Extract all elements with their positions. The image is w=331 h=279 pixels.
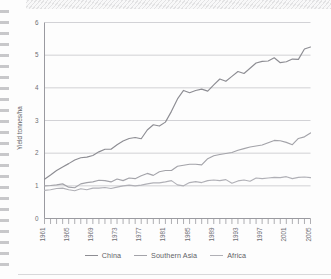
svg-text:2: 2 [35,149,39,156]
chart-plot-svg: 0123456 19611965196919731977198119851989… [0,0,331,279]
svg-text:Yield tonnes/ha: Yield tonnes/ha [16,106,23,150]
svg-text:6: 6 [35,19,39,26]
legend-item-africa: Africa [210,251,246,260]
legend-item-china: China [85,251,121,260]
chart-legend: China Southern Asia Africa [0,251,331,260]
y-axis-title: Yield tonnes/ha [16,106,23,150]
legend-label-southern-asia: Southern Asia [151,251,197,260]
x-axis-ticks [45,219,311,225]
gridlines [45,23,311,186]
svg-text:1981: 1981 [159,227,166,242]
legend-swatch-china [85,255,98,256]
svg-text:1989: 1989 [208,227,215,242]
data-series-lines [45,47,311,191]
legend-label-africa: Africa [227,251,246,260]
svg-text:1961: 1961 [39,227,46,242]
yield-line-chart: 0123456 19611965196919731977198119851989… [0,0,331,279]
legend-swatch-southern-asia [134,255,147,256]
svg-text:1969: 1969 [87,227,94,242]
legend-label-china: China [102,251,121,260]
svg-text:1: 1 [35,182,39,189]
svg-text:2005: 2005 [305,227,312,242]
svg-text:0: 0 [35,215,39,222]
svg-text:1997: 1997 [256,227,263,242]
svg-text:3: 3 [35,117,39,124]
svg-text:1977: 1977 [135,227,142,242]
y-axis-tick-labels: 0123456 [35,19,39,222]
svg-text:2001: 2001 [280,227,287,242]
svg-text:1973: 1973 [111,227,118,242]
legend-item-southern-asia: Southern Asia [134,251,197,260]
svg-text:1985: 1985 [184,227,191,242]
legend-swatch-africa [210,255,223,256]
svg-text:1993: 1993 [232,227,239,242]
svg-text:5: 5 [35,51,39,58]
svg-text:4: 4 [35,84,39,91]
svg-text:1965: 1965 [63,227,70,242]
x-axis-tick-labels: 1961196519691973197719811985198919931997… [39,227,312,242]
